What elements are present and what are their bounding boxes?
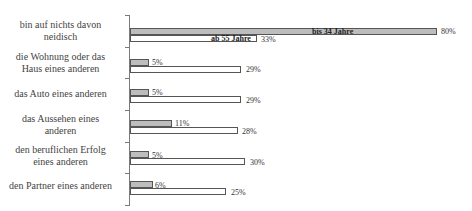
value-label: 28% (242, 127, 257, 136)
legend-label-ab-55: ab 55 Jahre (211, 35, 251, 43)
value-label: 33% (261, 35, 276, 44)
value-label: 80% (441, 27, 456, 36)
axis-tick (125, 173, 129, 174)
value-label: 29% (246, 96, 261, 105)
axis-tick (125, 142, 129, 143)
axis-tick (125, 47, 129, 48)
legend-label-bis-34: bis 34 Jahre (312, 28, 353, 36)
axis-tick (125, 205, 129, 206)
bar-bis-34 (130, 59, 149, 66)
category-label: das Aussehen eines anderen (0, 113, 121, 137)
category-label-line: Haus eines anderen (0, 63, 121, 75)
bar-ab-55 (130, 66, 241, 73)
category-label: das Auto eines anderen (0, 88, 121, 100)
category-label-line: das Auto eines anderen (0, 88, 121, 100)
category-label-line: den Partner eines anderen (0, 180, 121, 192)
category-label-line: neidisch (0, 31, 121, 43)
category-label-line: die Wohnung oder das (0, 51, 121, 63)
bar-ab-55 (130, 188, 226, 195)
y-axis-line (129, 15, 130, 206)
axis-tick (125, 78, 129, 79)
bar-ab-55 (130, 127, 238, 134)
bar-bis-34 (130, 28, 437, 35)
category-label-line: das Aussehen eines (0, 113, 121, 125)
category-label-line: eines anderen (0, 156, 121, 168)
bar-bis-34 (130, 89, 149, 96)
horizontal-bar-chart: bin auf nichts davon neidisch bis 34 Jah… (0, 0, 472, 211)
bar-ab-55 (130, 158, 245, 165)
category-label: die Wohnung oder das Haus eines anderen (0, 51, 121, 75)
axis-tick (125, 15, 129, 16)
category-label-line: den beruflichen Erfolg (0, 144, 121, 156)
bar-ab-55 (130, 96, 241, 103)
value-label: 25% (231, 188, 246, 197)
category-label-line: bin auf nichts davon (0, 19, 121, 31)
value-label: 29% (246, 65, 261, 74)
bar-bis-34 (130, 151, 149, 158)
category-label: den Partner eines anderen (0, 180, 121, 192)
category-label: bin auf nichts davon neidisch (0, 19, 121, 43)
category-label-line: anderen (0, 125, 121, 137)
category-label: den beruflichen Erfolg eines anderen (0, 144, 121, 168)
bar-bis-34 (130, 120, 172, 127)
bar-bis-34 (130, 181, 153, 188)
axis-tick (125, 110, 129, 111)
value-label: 30% (250, 158, 265, 167)
